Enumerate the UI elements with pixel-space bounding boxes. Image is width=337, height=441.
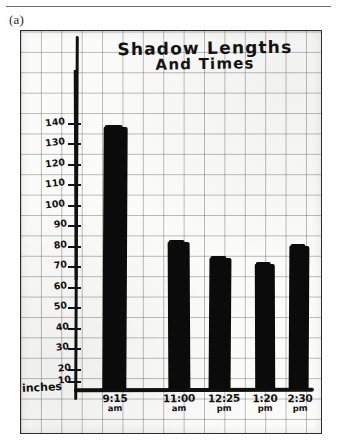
bar-2-30-pm xyxy=(289,246,310,389)
y-tick-label: 110 xyxy=(34,176,65,191)
y-tick-mark xyxy=(68,348,81,350)
y-tick-label: 140 xyxy=(34,115,65,130)
y-tick-label: 60 xyxy=(36,279,67,294)
y-tick-mark xyxy=(68,328,81,330)
graph-paper-sheet: Shadow Lengths And Times 140 130 120 110… xyxy=(20,30,322,434)
y-tick-mark xyxy=(68,123,81,125)
bar-9-15-am xyxy=(102,127,127,389)
chart-plot-area: Shadow Lengths And Times 140 130 120 110… xyxy=(21,31,321,433)
x-tick-label-5: 2:30 pm xyxy=(283,393,317,413)
y-tick-mark xyxy=(68,246,81,248)
y-tick-mark xyxy=(68,266,81,268)
y-tick-label: 50 xyxy=(36,299,67,314)
y-tick-label: 120 xyxy=(34,156,65,171)
page-divider-rule xyxy=(6,6,331,7)
y-tick-label: 40 xyxy=(38,320,69,335)
y-tick-mark xyxy=(68,143,81,145)
bar-12-25-pm xyxy=(209,258,232,389)
y-tick-label: 90 xyxy=(36,217,67,232)
x-tick-label-1: 9:15 am xyxy=(85,392,145,412)
x-tick-meridiem-4: pm xyxy=(249,403,281,412)
y-axis-unit-label: inches xyxy=(22,380,63,395)
figure-panel: (a) Shadow Lengths And Times 140 130 120… xyxy=(0,0,337,441)
bar-11-00-am xyxy=(168,242,191,389)
y-tick-mark xyxy=(68,225,81,227)
x-tick-meridiem-3: pm xyxy=(196,403,252,413)
x-tick-meridiem-1: am xyxy=(85,403,145,413)
x-tick-label-3: 12:25 pm xyxy=(196,393,252,413)
y-tick-label: 130 xyxy=(34,135,65,150)
y-tick-label: 100 xyxy=(34,197,65,212)
panel-label: (a) xyxy=(9,12,24,28)
y-tick-label: 80 xyxy=(36,238,67,253)
y-tick-mark xyxy=(68,307,81,309)
chart-title: Shadow Lengths And Times xyxy=(99,38,311,75)
y-tick-mark xyxy=(68,164,81,166)
y-tick-mark xyxy=(68,184,81,186)
y-tick-mark xyxy=(68,287,81,289)
y-axis-line xyxy=(74,36,79,400)
y-tick-label: 70 xyxy=(36,258,67,273)
x-tick-label-4: 1:20 pm xyxy=(249,393,281,413)
bar-1-20-pm xyxy=(255,264,275,389)
y-tick-mark xyxy=(68,205,81,207)
x-tick-meridiem-5: pm xyxy=(283,403,317,412)
y-tick-label: 30 xyxy=(38,340,69,355)
